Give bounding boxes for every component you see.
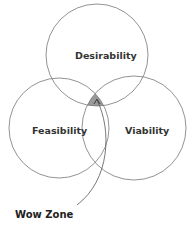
wow-zone-arrow [77, 100, 106, 205]
wow-zone-label: Wow Zone [15, 209, 73, 220]
venn-diagram [0, 0, 192, 226]
viability-label: Viability [125, 125, 169, 136]
feasibility-label: Feasibility [32, 125, 87, 136]
desirability-label: Desirability [75, 50, 137, 61]
